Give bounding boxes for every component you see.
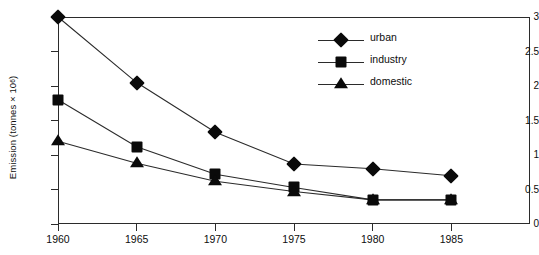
legend: urbanindustrydomestic bbox=[318, 30, 468, 96]
x-tick-label: 1970 bbox=[185, 234, 245, 245]
data-point-industry-1965 bbox=[131, 141, 142, 152]
y-tick-mark bbox=[51, 51, 58, 52]
diamond-marker-icon bbox=[333, 32, 349, 48]
data-point-domestic-1965 bbox=[130, 156, 144, 167]
triangle-marker-icon bbox=[334, 77, 348, 88]
x-tick-mark bbox=[294, 224, 295, 231]
y-tick-label: 3 bbox=[495, 12, 539, 22]
y-tick-mark bbox=[51, 120, 58, 121]
chart-figure: Emission (tonnes × 106) 00.511.522.53 19… bbox=[0, 0, 539, 255]
legend-label: domestic bbox=[370, 76, 412, 87]
y-tick-label: 0.5 bbox=[495, 185, 539, 195]
square-marker-icon bbox=[336, 57, 347, 68]
y-axis-title: Emission (tonnes × 106) bbox=[2, 0, 22, 255]
y-tick-label: 1 bbox=[495, 150, 539, 160]
legend-item-industry: industry bbox=[318, 52, 468, 74]
x-tick-mark bbox=[451, 224, 452, 231]
x-tick-mark bbox=[372, 224, 373, 231]
legend-label: urban bbox=[370, 32, 397, 43]
legend-item-domestic: domestic bbox=[318, 74, 468, 96]
y-axis-title-close: ) bbox=[7, 76, 18, 79]
data-point-industry-1960 bbox=[53, 94, 64, 105]
x-tick-label: 1965 bbox=[107, 234, 167, 245]
x-tick-label: 1985 bbox=[421, 234, 481, 245]
legend-label: industry bbox=[370, 54, 407, 65]
y-tick-label: 1.5 bbox=[495, 116, 539, 126]
y-tick-label: 2 bbox=[495, 81, 539, 91]
data-point-domestic-1960 bbox=[51, 134, 65, 145]
y-tick-mark bbox=[51, 155, 58, 156]
legend-item-urban: urban bbox=[318, 30, 468, 52]
x-tick-label: 1980 bbox=[343, 234, 403, 245]
x-tick-label: 1975 bbox=[264, 234, 324, 245]
y-axis-title-exponent: 6 bbox=[9, 79, 16, 83]
data-point-domestic-1970 bbox=[208, 174, 222, 185]
y-axis-title-text: Emission (tonnes × 10 bbox=[7, 83, 18, 179]
data-point-domestic-1985 bbox=[444, 193, 458, 204]
y-tick-mark bbox=[51, 86, 58, 87]
x-tick-label: 1960 bbox=[28, 234, 88, 245]
x-tick-mark bbox=[58, 224, 59, 231]
x-tick-mark bbox=[136, 224, 137, 231]
y-tick-mark bbox=[51, 189, 58, 190]
x-tick-mark bbox=[215, 224, 216, 231]
y-tick-label: 0 bbox=[495, 219, 539, 229]
y-tick-label: 2.5 bbox=[495, 47, 539, 57]
data-point-domestic-1980 bbox=[366, 193, 380, 204]
data-point-domestic-1975 bbox=[287, 185, 301, 196]
